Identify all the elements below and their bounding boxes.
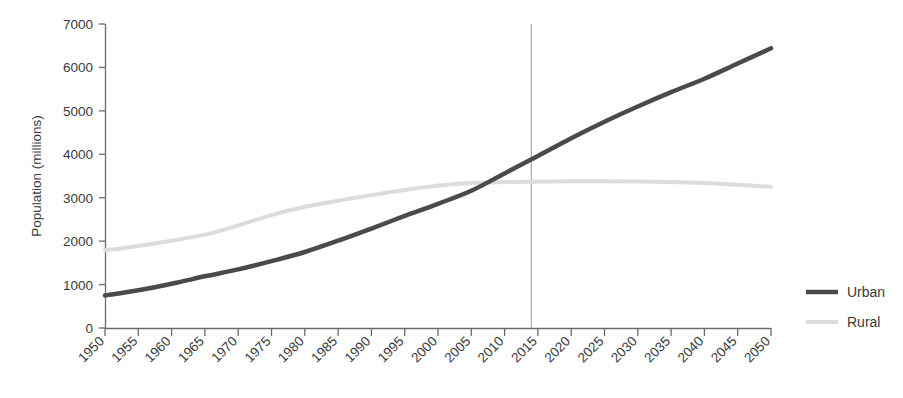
- series-lines: [105, 48, 771, 295]
- x-tick-label: 1980: [275, 334, 307, 366]
- y-tick-label: 2000: [63, 234, 93, 249]
- x-tick-label: 2000: [408, 334, 440, 366]
- y-tick-label: 3000: [63, 191, 93, 206]
- x-tick-label: 1965: [175, 334, 207, 366]
- x-tick-label: 1970: [208, 334, 240, 366]
- y-tick-label: 4000: [63, 147, 93, 162]
- y-axis-ticks: 01000200030004000500060007000: [63, 17, 105, 336]
- x-tick-label: 1975: [242, 334, 274, 366]
- population-urban-rural-line-chart: 01000200030004000500060007000 1950195519…: [0, 0, 903, 398]
- x-tick-label: 2035: [641, 334, 673, 366]
- x-tick-label: 1985: [308, 334, 340, 366]
- x-tick-label: 2025: [575, 334, 607, 366]
- series-line-urban: [105, 48, 771, 295]
- y-tick-label: 0: [85, 321, 93, 336]
- y-tick-label: 5000: [63, 104, 93, 119]
- x-tick-label: 2030: [608, 334, 640, 366]
- y-tick-label: 7000: [63, 17, 93, 32]
- y-axis-title: Population (millions): [29, 115, 44, 237]
- x-tick-label: 2020: [541, 334, 573, 366]
- x-tick-label: 2010: [475, 334, 507, 366]
- chart-canvas: 01000200030004000500060007000 1950195519…: [0, 0, 903, 398]
- x-axis-ticks: 1950195519601965197019751980198519901995…: [75, 328, 773, 365]
- y-tick-label: 6000: [63, 60, 93, 75]
- x-tick-label: 1955: [109, 334, 141, 366]
- series-line-rural: [105, 181, 771, 250]
- x-tick-label: 2045: [708, 334, 740, 366]
- x-tick-label: 2015: [508, 334, 540, 366]
- y-tick-label: 1000: [63, 278, 93, 293]
- legend-label-rural: Rural: [847, 314, 880, 330]
- x-tick-label: 2005: [442, 334, 474, 366]
- x-tick-label: 1995: [375, 334, 407, 366]
- x-tick-label: 1990: [342, 334, 374, 366]
- x-tick-label: 1950: [75, 334, 107, 366]
- x-tick-label: 1960: [142, 334, 174, 366]
- legend-label-urban: Urban: [847, 284, 885, 300]
- chart-legend: UrbanRural: [806, 284, 885, 330]
- x-tick-label: 2050: [741, 334, 773, 366]
- x-tick-label: 2040: [675, 334, 707, 366]
